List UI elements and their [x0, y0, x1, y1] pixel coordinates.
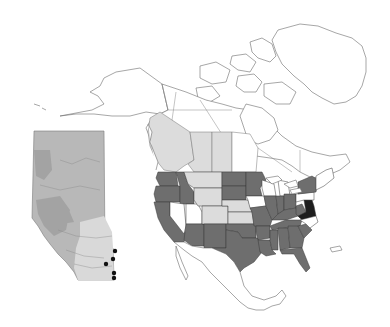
north-america-map	[0, 0, 390, 327]
inset-southern-light-region	[74, 216, 114, 280]
state-colorado	[202, 206, 228, 224]
state-new-mexico	[204, 224, 226, 248]
state-montana	[184, 172, 222, 188]
state-utah	[186, 204, 202, 224]
location-marker	[113, 249, 117, 253]
location-marker	[104, 262, 108, 266]
state-south-dakota	[222, 186, 246, 200]
state-florida	[280, 248, 310, 272]
state-wyoming	[194, 188, 222, 206]
alaska	[60, 68, 168, 116]
state-alabama	[278, 228, 290, 250]
alberta-inset	[32, 131, 117, 280]
state-kansas	[228, 212, 254, 224]
state-ohio	[284, 194, 296, 210]
state-arkansas	[256, 226, 270, 240]
location-marker	[112, 271, 116, 275]
location-marker	[111, 257, 115, 261]
state-north-dakota	[222, 172, 246, 186]
state-arizona	[184, 224, 204, 246]
state-mississippi	[270, 230, 278, 250]
aleutian-islands	[34, 104, 46, 110]
caribbean-island	[330, 246, 342, 252]
state-washington	[156, 172, 178, 186]
state-oregon	[154, 186, 180, 202]
location-marker	[112, 276, 116, 280]
us-states	[154, 168, 334, 272]
saskatchewan	[212, 132, 232, 172]
